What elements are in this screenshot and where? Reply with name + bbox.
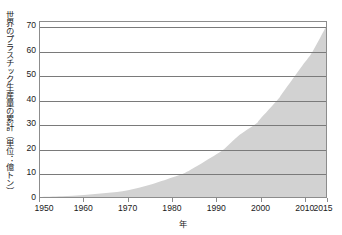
y-tick-label-50: 50 (16, 70, 36, 79)
x-tick-label-2015: 2015 (313, 203, 332, 213)
x-tick-mark-1960 (83, 198, 84, 202)
y-tick-label-40: 40 (16, 95, 36, 104)
x-tick-mark-2000 (261, 198, 262, 202)
x-tick-label-1970: 1970 (118, 203, 137, 213)
x-tick-label-1950: 1950 (34, 203, 53, 213)
x-tick-mark-1950 (39, 198, 40, 202)
y-tick-label-30: 30 (16, 119, 36, 128)
y-tick-label-0: 0 (16, 193, 36, 202)
x-tick-mark-2015 (327, 198, 328, 202)
x-tick-mark-1990 (216, 198, 217, 202)
y-tick-label-20: 20 (16, 144, 36, 153)
x-tick-label-1990: 1990 (207, 203, 226, 213)
x-tick-mark-1980 (172, 198, 173, 202)
plot-area (39, 21, 327, 198)
area-series-plastic-production (40, 22, 326, 197)
y-axis-tick-labels: 010203040506070 (12, 21, 36, 198)
y-tick-label-60: 60 (16, 46, 36, 55)
x-tick-label-1960: 1960 (74, 203, 93, 213)
x-tick-label-1980: 1980 (162, 203, 181, 213)
x-axis-title: 年 (39, 219, 327, 229)
y-tick-label-10: 10 (16, 168, 36, 177)
chart-figure: 世界のプラスチック生産量の累計（単位：億トン） 010203040506070 … (0, 0, 342, 235)
x-tick-label-2000: 2000 (251, 203, 270, 213)
x-tick-mark-2010 (305, 198, 306, 202)
x-tick-label-2010: 2010 (295, 203, 314, 213)
y-tick-label-70: 70 (16, 21, 36, 30)
x-tick-mark-1970 (128, 198, 129, 202)
